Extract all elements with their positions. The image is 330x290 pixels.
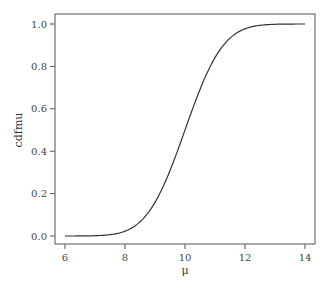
y-axis-label: cdfmu	[12, 113, 25, 148]
x-axis: 68101214	[62, 244, 312, 263]
y-tick-label: 0.4	[31, 146, 47, 157]
x-tick-label: 6	[62, 252, 68, 263]
y-tick-label: 0.8	[31, 61, 47, 72]
cdf-curve	[65, 24, 305, 236]
cdf-chart: 0.00.20.40.60.81.0 68101214 μ cdfmu	[0, 0, 330, 290]
x-axis-label: μ	[181, 264, 188, 277]
x-tick-label: 10	[179, 252, 192, 263]
y-tick-label: 1.0	[31, 19, 47, 30]
x-tick-label: 8	[122, 252, 128, 263]
y-axis: 0.00.20.40.60.81.0	[31, 19, 55, 242]
y-tick-label: 0.0	[31, 231, 47, 242]
x-tick-label: 14	[299, 252, 312, 263]
x-tick-label: 12	[239, 252, 252, 263]
y-tick-label: 0.6	[31, 103, 47, 114]
y-tick-label: 0.2	[31, 188, 47, 199]
